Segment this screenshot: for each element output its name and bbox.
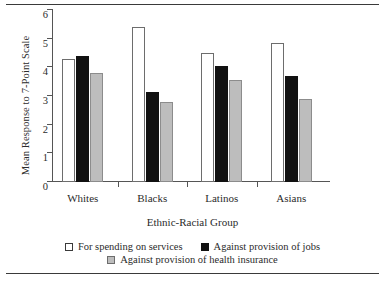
y-axis-title: Mean Response to 7-Point Scale	[20, 11, 31, 201]
chart-legend: For spending on servicesAgainst provisio…	[0, 240, 385, 266]
bar	[90, 73, 103, 182]
legend-swatch-icon	[201, 243, 209, 251]
x-axis-category-label: Asians	[276, 192, 306, 204]
y-axis-tick	[47, 9, 53, 10]
legend-label: Against provision of jobs	[214, 240, 320, 253]
legend-item: For spending on services	[65, 240, 183, 253]
x-axis-category-label: Latinos	[205, 192, 238, 204]
plot-area: 0123456	[52, 10, 330, 182]
legend-item: Against provision of jobs	[201, 240, 320, 253]
legend-label: Against provision of health insurance	[120, 253, 277, 266]
legend-swatch-icon	[107, 256, 115, 264]
y-axis-tick	[47, 181, 53, 182]
bar	[285, 76, 298, 182]
legend-label: For spending on services	[78, 240, 183, 253]
legend-row: For spending on servicesAgainst provisio…	[0, 240, 385, 253]
bar	[76, 56, 89, 182]
figure-panel: Mean Response to 7-Point Scale 0123456 E…	[0, 0, 385, 287]
bar	[215, 66, 228, 182]
y-axis-tick	[47, 95, 53, 96]
bar	[132, 27, 145, 182]
legend-swatch-icon	[65, 243, 73, 251]
bar-group	[271, 10, 312, 182]
bar-group	[62, 10, 103, 182]
top-divider	[6, 4, 379, 5]
x-axis-tick	[118, 181, 119, 187]
bar	[229, 80, 242, 182]
bar	[146, 92, 159, 182]
bottom-divider	[6, 273, 379, 274]
x-axis-category-label: Blacks	[137, 192, 167, 204]
bar	[62, 59, 75, 182]
x-axis-tick	[257, 181, 258, 187]
legend-row: Against provision of health insurance	[0, 253, 385, 266]
x-axis-title: Ethnic-Racial Group	[147, 216, 238, 228]
y-axis-line	[52, 10, 53, 182]
bar-group	[132, 10, 173, 182]
bar-chart: Mean Response to 7-Point Scale 0123456 E…	[0, 8, 385, 270]
x-axis-title-wrap: Ethnic-Racial Group	[0, 216, 385, 228]
x-axis-tick	[187, 181, 188, 187]
legend-item: Against provision of health insurance	[107, 253, 277, 266]
bar	[201, 53, 214, 182]
x-axis-category-label: Whites	[67, 192, 98, 204]
bar	[299, 99, 312, 182]
bar	[271, 43, 284, 182]
bar-group	[201, 10, 242, 182]
bar	[160, 102, 173, 182]
